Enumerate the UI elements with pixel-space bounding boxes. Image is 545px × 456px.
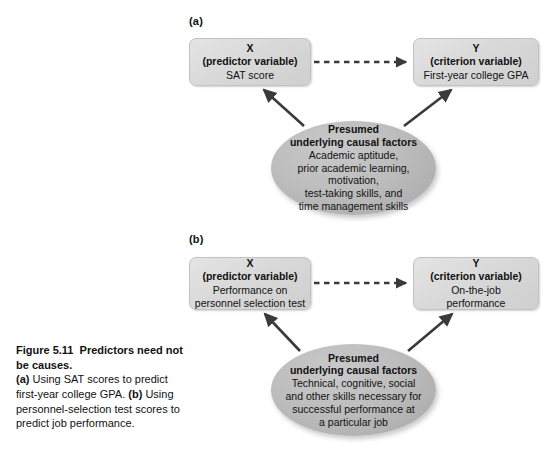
panel-b-causal-ellipse: Presumed underlying causal factors Techn… [271, 344, 436, 436]
panel-a-criterion-line1: Y [472, 42, 479, 55]
panel-a-criterion-line3: First-year college GPA [424, 69, 529, 82]
panel-b-ellipse-line1: Presumed [328, 352, 379, 365]
panel-a-predictor-line3: SAT score [226, 69, 274, 82]
panel-a-predictor-box: X (predictor variable) SAT score [189, 38, 311, 86]
panel-a-predictor-line1: X [246, 42, 253, 55]
panel-b-predictor-box: X (predictor variable) Performance on pe… [189, 257, 311, 310]
panel-a-ellipse-line4: prior academic learning, [297, 162, 409, 175]
panel-a-causal-arrow-to-criterion [404, 90, 451, 126]
panel-a-causal-arrow-to-predictor [264, 90, 304, 126]
panel-b-predictor-line1: X [246, 257, 253, 270]
panel-a-ellipse-line6: test-taking skills, and [305, 187, 402, 200]
panel-a-letter: (a) [189, 15, 203, 27]
panel-a-ellipse-line3: Academic aptitude, [309, 149, 398, 162]
panel-a-criterion-line2: (criterion variable) [430, 55, 522, 68]
panel-b-predictor-line3: Performance on [213, 284, 288, 297]
panel-b-predictor-line4: personnel selection test [195, 297, 305, 310]
panel-b-ellipse-line2: underlying causal factors [290, 364, 417, 377]
panel-a-causal-ellipse: Presumed underlying causal factors Acade… [271, 121, 436, 215]
panel-b-criterion-box: Y (criterion variable) On-the-job perfor… [413, 257, 539, 310]
panel-b-ellipse-line5: successful performance at [292, 403, 415, 416]
panel-b-ellipse-line3: Technical, cognitive, social [292, 377, 416, 390]
panel-b-criterion-line1: Y [472, 257, 479, 270]
panel-b-causal-arrow-to-predictor [265, 314, 300, 351]
panel-b-predictor-line2: (predictor variable) [202, 270, 297, 283]
panel-a-ellipse-line1: Presumed [328, 123, 379, 136]
caption-a-marker: (a) [16, 373, 29, 385]
panel-b-criterion-line4: performance [447, 297, 506, 310]
panel-a-predictor-line2: (predictor variable) [202, 55, 297, 68]
panel-b-letter: (b) [189, 233, 204, 245]
panel-b-ellipse-line6: a particular job [319, 416, 388, 429]
figure-caption: Figure 5.11 Predictors need not be cause… [16, 343, 184, 431]
caption-figure-number: Figure 5.11 [16, 344, 73, 356]
panel-b-ellipse-line4: and other skills necessary for [286, 390, 422, 403]
panel-a-ellipse-line2: underlying causal factors [290, 136, 417, 149]
caption-b-marker: (b) [128, 388, 142, 400]
panel-b-causal-arrow-to-criterion [408, 314, 452, 351]
panel-b-criterion-line3: On-the-job [451, 284, 501, 297]
panel-a-criterion-box: Y (criterion variable) First-year colleg… [413, 38, 539, 86]
panel-b-criterion-line2: (criterion variable) [430, 270, 522, 283]
panel-a-ellipse-line7: time management skills [299, 200, 409, 213]
panel-a-ellipse-line5: motivation, [328, 174, 379, 187]
figure-5-11: (a) X (predictor variable) SAT score Y (… [0, 0, 545, 456]
